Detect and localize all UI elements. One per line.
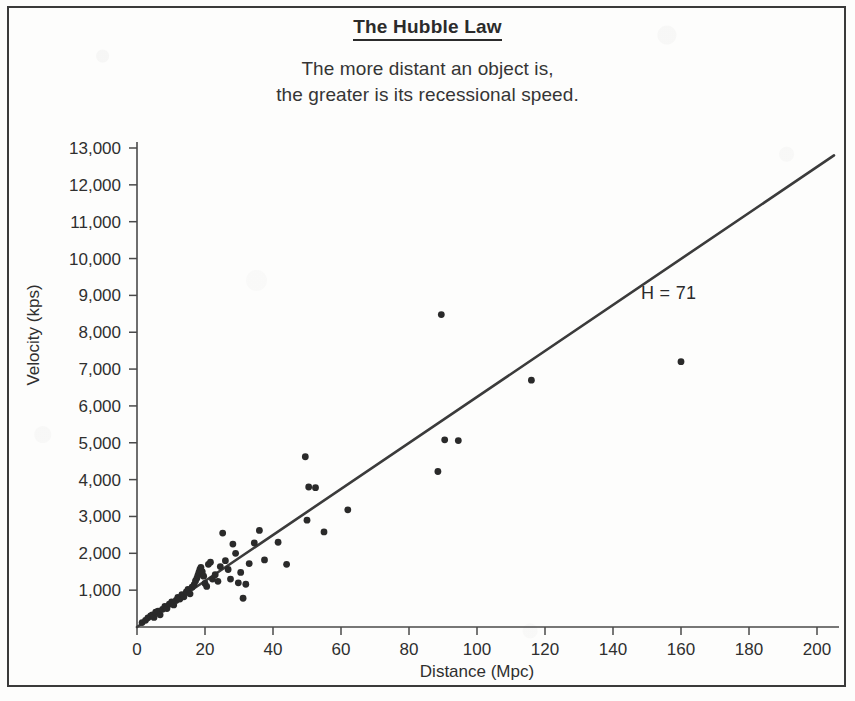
data-points (139, 311, 685, 626)
data-point (438, 311, 445, 318)
data-point (219, 530, 226, 537)
data-point (251, 540, 258, 547)
data-point (215, 578, 222, 585)
y-tick-label: 12,000 (69, 176, 121, 195)
x-tick-label: 20 (196, 640, 215, 659)
data-point (200, 573, 207, 580)
data-point (455, 437, 462, 444)
data-point (232, 550, 239, 557)
x-tick-label: 140 (599, 640, 627, 659)
data-point (227, 576, 234, 583)
y-tick-label: 2,000 (78, 544, 121, 563)
data-point (237, 569, 244, 576)
data-point (321, 529, 328, 536)
y-axis-ticks: 1,0002,0003,0004,0005,0006,0007,0008,000… (69, 139, 137, 600)
y-tick-label: 1,000 (78, 581, 121, 600)
y-tick-label: 6,000 (78, 397, 121, 416)
data-point (207, 559, 214, 566)
data-point (344, 506, 351, 513)
data-point (242, 581, 249, 588)
y-tick-label: 9,000 (78, 286, 121, 305)
data-point (275, 539, 282, 546)
data-point (222, 557, 229, 564)
hubble-fit-line (137, 155, 834, 627)
x-tick-label: 200 (803, 640, 831, 659)
data-point (246, 560, 253, 567)
y-tick-label: 7,000 (78, 360, 121, 379)
data-point (203, 583, 210, 590)
data-point (302, 453, 309, 460)
data-point (235, 579, 242, 586)
data-point (678, 358, 685, 365)
data-point (187, 590, 194, 597)
y-tick-label: 5,000 (78, 434, 121, 453)
y-tick-label: 3,000 (78, 507, 121, 526)
x-tick-label: 100 (463, 640, 491, 659)
data-point (305, 484, 312, 491)
data-point (256, 527, 263, 534)
data-point (283, 561, 290, 568)
y-tick-label: 10,000 (69, 250, 121, 269)
y-tick-label: 8,000 (78, 323, 121, 342)
x-tick-label: 0 (132, 640, 141, 659)
x-tick-label: 180 (735, 640, 763, 659)
data-point (240, 595, 247, 602)
y-tick-label: 11,000 (70, 213, 121, 232)
data-point (312, 484, 319, 491)
x-tick-label: 60 (332, 640, 351, 659)
x-axis-ticks: 020406080100120140160180200 (132, 627, 831, 659)
x-tick-label: 40 (264, 640, 283, 659)
y-tick-label: 4,000 (78, 471, 121, 490)
data-point (435, 468, 442, 475)
x-tick-label: 120 (531, 640, 559, 659)
x-tick-label: 160 (667, 640, 695, 659)
data-point (261, 557, 268, 564)
data-point (212, 571, 219, 578)
x-tick-label: 80 (400, 640, 419, 659)
scatter-plot: 1,0002,0003,0004,0005,0006,0007,0008,000… (0, 0, 855, 701)
y-tick-label: 13,000 (69, 139, 121, 158)
data-point (304, 517, 311, 524)
hubble-law-figure: The Hubble Law The more distant an objec… (0, 0, 855, 701)
hubble-constant-annotation: H = 71 (641, 283, 696, 304)
data-point (225, 566, 232, 573)
data-point (229, 541, 236, 548)
data-point (217, 563, 224, 570)
data-point (441, 436, 448, 443)
data-point (528, 377, 535, 384)
